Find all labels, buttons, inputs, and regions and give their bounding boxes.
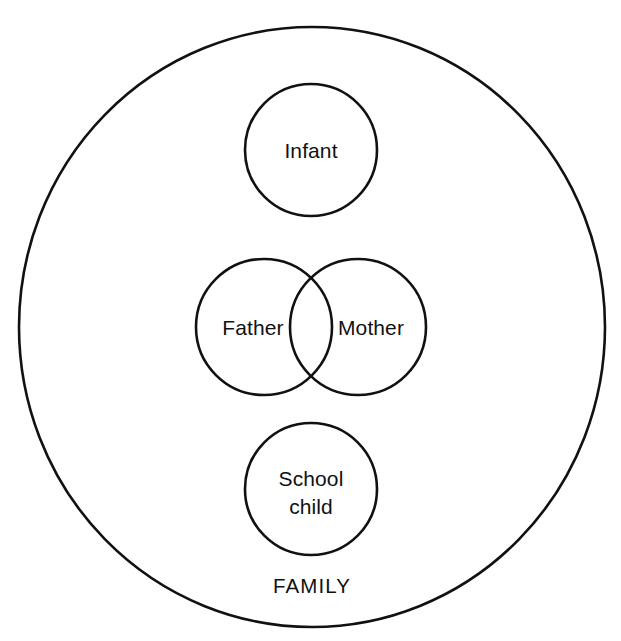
family-venn-diagram: Infant Father Mother School child FAMILY	[0, 0, 621, 641]
family-outer-circle	[19, 27, 605, 627]
family-label: FAMILY	[273, 574, 351, 597]
school-child-label-line1: School	[279, 467, 344, 490]
infant-label: Infant	[284, 139, 337, 162]
father-label: Father	[222, 316, 283, 339]
diagram-canvas: Infant Father Mother School child FAMILY	[0, 0, 621, 641]
school-child-label-line2: child	[289, 495, 333, 518]
mother-label: Mother	[338, 316, 404, 339]
